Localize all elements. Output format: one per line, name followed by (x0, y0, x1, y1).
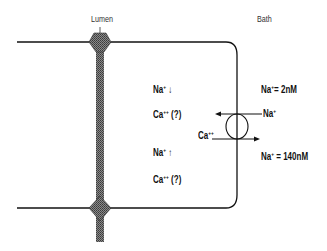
interior-ca-unknown-2: Ca++ (?) (153, 174, 181, 185)
exchanger-na-label: Na+ (263, 108, 276, 119)
lumen-label: Lumen (91, 15, 113, 24)
exchanger-ca-label: Ca++ (198, 130, 214, 141)
arrowhead-left (215, 112, 221, 117)
interior-na-increase: Na+ ↑ (153, 147, 172, 158)
bath-na-140nM: Na+ = 140nM (261, 151, 308, 162)
tight-junction-bottom (89, 196, 111, 221)
cell-diagram (0, 0, 327, 251)
tight-junction-top (89, 33, 111, 52)
arrowhead-right (254, 137, 260, 142)
tight-junction-column (89, 27, 111, 242)
interior-ca-unknown-1: Ca++ (?) (153, 109, 181, 120)
bath-label: Bath (257, 15, 272, 24)
interior-na-decrease: Na+ ↓ (153, 84, 172, 95)
cell-membrane (17, 42, 237, 208)
bath-na-2nM: Na+= 2nM (261, 84, 297, 95)
